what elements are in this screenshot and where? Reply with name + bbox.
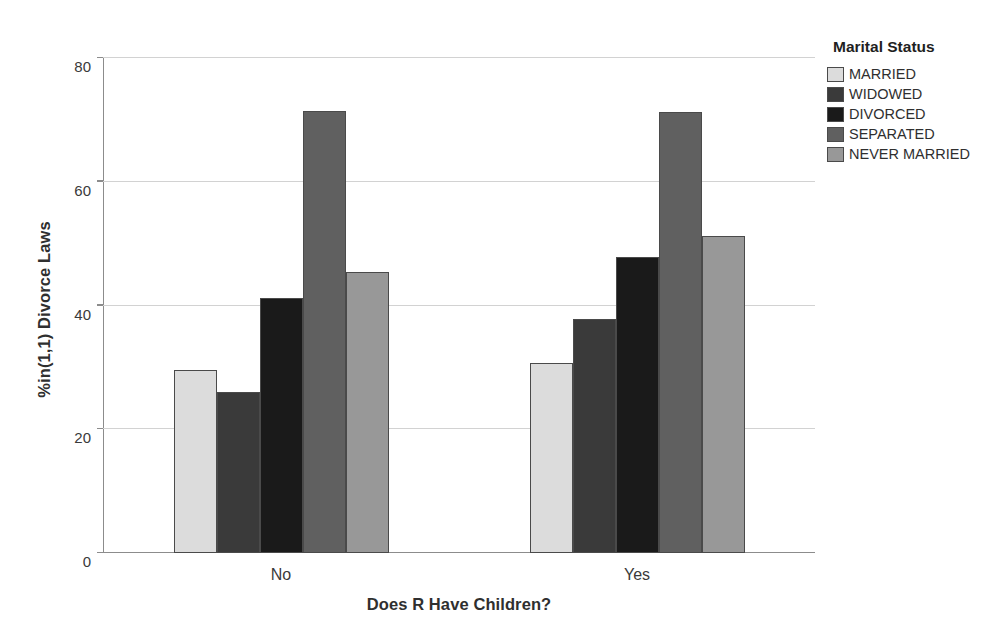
x-group-label-no: No — [271, 566, 291, 584]
legend-label: WIDOWED — [849, 87, 922, 102]
bar-chart-figure: %in(1,1) Divorce Laws 020406080 NoYes Do… — [0, 0, 1007, 631]
legend-swatch-icon — [827, 87, 844, 102]
x-axis-title: Does R Have Children? — [103, 595, 815, 614]
legend-item-widowed: WIDOWED — [827, 85, 1002, 104]
legend-swatch-icon — [827, 147, 844, 162]
legend-item-never-married: NEVER MARRIED — [827, 145, 1002, 164]
bar-no-divorced — [260, 298, 303, 553]
legend-title: Marital Status — [833, 38, 1002, 56]
legend-label: MARRIED — [849, 67, 916, 82]
legend-item-married: MARRIED — [827, 65, 1002, 84]
bar-no-married — [174, 370, 217, 553]
legend-item-divorced: DIVORCED — [827, 105, 1002, 124]
legend-swatch-icon — [827, 107, 844, 122]
bar-no-separated — [303, 111, 346, 553]
legend-swatch-icon — [827, 67, 844, 82]
legend-items: MARRIEDWIDOWEDDIVORCEDSEPARATEDNEVER MAR… — [827, 65, 1002, 164]
x-group-label-yes: Yes — [624, 566, 650, 584]
legend-label: SEPARATED — [849, 127, 935, 142]
y-axis-title: %in(1,1) Divorce Laws — [35, 120, 54, 500]
bar-yes-married — [530, 363, 573, 553]
legend: Marital Status MARRIEDWIDOWEDDIVORCEDSEP… — [827, 38, 1002, 165]
bar-yes-separated — [659, 112, 702, 553]
bar-yes-never-married — [702, 236, 745, 553]
plot-area: 020406080 NoYes — [103, 58, 815, 553]
legend-label: DIVORCED — [849, 107, 926, 122]
bar-no-never-married — [346, 272, 389, 553]
legend-label: NEVER MARRIED — [849, 147, 970, 162]
bars-layer — [103, 58, 815, 553]
bar-no-widowed — [217, 392, 260, 553]
bar-yes-divorced — [616, 257, 659, 553]
bar-yes-widowed — [573, 319, 616, 553]
legend-swatch-icon — [827, 127, 844, 142]
legend-item-separated: SEPARATED — [827, 125, 1002, 144]
